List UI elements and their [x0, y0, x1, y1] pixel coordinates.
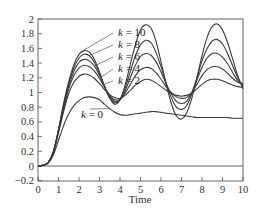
series-line-k0 — [38, 97, 243, 166]
x-tick-label: 3 — [97, 184, 102, 195]
annotation-label: k = 6 — [118, 50, 141, 62]
plot-frame — [38, 19, 243, 181]
y-tick-label: 2 — [29, 14, 34, 25]
y-tick-label: 1.4 — [21, 58, 35, 69]
annotation-label: k = 10 — [118, 26, 146, 38]
step-response-chart: −0.200.20.40.60.811.21.41.61.82 01234567… — [0, 0, 261, 224]
x-tick-label: 4 — [117, 184, 123, 195]
series-line-k8 — [38, 39, 243, 166]
series-lines — [38, 24, 243, 166]
x-axis-title: Time — [129, 193, 152, 205]
y-tick-label: 1 — [29, 87, 34, 98]
annotation-leader-line — [94, 57, 113, 66]
annotation-label: k = 2 — [118, 74, 140, 86]
x-tick-label: 6 — [158, 184, 163, 195]
x-tick-label: 7 — [179, 184, 184, 195]
annotation-label: k = 0 — [81, 108, 104, 120]
y-tick-label: −0.2 — [15, 175, 34, 186]
x-tick-label: 10 — [238, 184, 249, 195]
annotation-leader-line — [90, 45, 113, 55]
annotation-label: k = 4 — [118, 62, 141, 74]
y-tick-label: 0.6 — [21, 116, 34, 127]
y-tick-label: 0.8 — [21, 102, 34, 113]
y-tick-label: 1.8 — [21, 28, 34, 39]
x-tick-label: 8 — [199, 184, 204, 195]
x-tick-label: 9 — [220, 184, 225, 195]
curve-annotations: k = 10k = 8k = 6k = 4k = 2k = 0 — [81, 26, 146, 120]
y-tick-label: 1.2 — [21, 72, 34, 83]
x-tick-label: 1 — [56, 184, 61, 195]
y-tick-label: 0 — [29, 161, 34, 172]
annotation-leader-line — [100, 69, 114, 79]
x-tick-label: 2 — [76, 184, 81, 195]
plot-area-border — [38, 19, 243, 181]
x-tick-label: 0 — [35, 184, 40, 195]
annotation-label: k = 8 — [118, 38, 141, 50]
y-tick-label: 1.6 — [21, 43, 34, 54]
annotation-leader-line — [83, 33, 113, 51]
y-tick-label: 0.2 — [21, 146, 34, 157]
y-tick-label: 0.4 — [21, 131, 35, 142]
